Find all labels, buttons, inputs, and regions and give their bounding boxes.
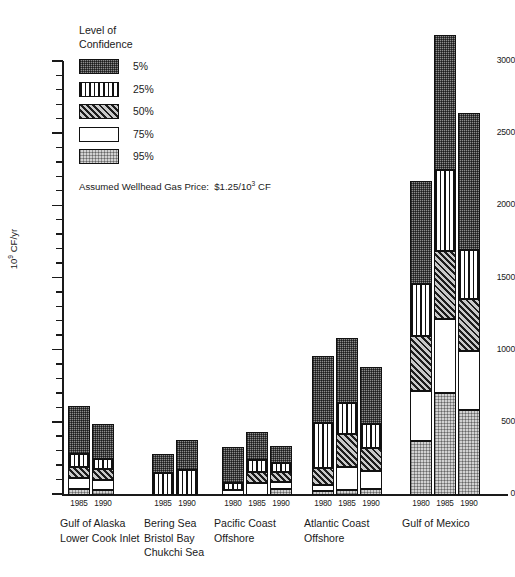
bar-segment (92, 424, 114, 459)
bar-segment (222, 447, 244, 483)
x-year-label: 1990 (354, 499, 388, 508)
bar-segment (410, 391, 432, 441)
bar-segment (246, 472, 268, 483)
bar-segment (92, 469, 114, 480)
bar-segment (152, 473, 174, 495)
x-year-label: 1990 (86, 499, 120, 508)
plot-area (62, 61, 508, 495)
bar-segment (434, 319, 456, 393)
bar-segment (312, 468, 334, 485)
bar-segment (270, 446, 292, 463)
x-year-label: 1990 (452, 499, 486, 508)
x-category-label: Bering SeaBristol BayChukchi Sea (144, 516, 204, 560)
bar-segment (336, 467, 358, 490)
bar-segment (360, 367, 382, 423)
bar-segment (312, 356, 334, 422)
bar-segment (410, 336, 432, 392)
bar-segment (458, 351, 480, 410)
legend-title: Level ofConfidence (79, 24, 154, 51)
bar-segment (92, 490, 114, 495)
bar-segment (176, 470, 198, 495)
bar-segment (68, 454, 90, 467)
bar-segment (246, 483, 268, 495)
bar-segment (458, 113, 480, 250)
bar-segment (68, 478, 90, 489)
bar-segment (270, 472, 292, 482)
bar-segment (270, 463, 292, 472)
bar-segment (434, 251, 456, 319)
x-year-label: 1990 (264, 499, 298, 508)
bar-segment (312, 485, 334, 491)
bar-segment (336, 434, 358, 467)
bar-segment (360, 489, 382, 495)
bar-segment (222, 490, 244, 495)
bar-segment (410, 181, 432, 284)
bar-segment (336, 403, 358, 434)
bar-segment (222, 483, 244, 489)
gas-supply-stacked-bar-chart: 050010001500200025003000 109 CF/yr Level… (0, 0, 515, 577)
bar-segment (152, 454, 174, 473)
bar-segment (434, 35, 456, 170)
bar-segment (312, 423, 334, 468)
bar-segment (458, 410, 480, 495)
bar-segment (434, 170, 456, 252)
bar-segment (92, 480, 114, 490)
bar-segment (270, 489, 292, 495)
bar-segment (68, 406, 90, 454)
bar-segment (434, 393, 456, 495)
bar-segment (246, 432, 268, 459)
bar-segment (68, 467, 90, 479)
x-category-label: Atlantic CoastOffshore (304, 516, 369, 545)
x-category-label: Gulf of AlaskaLower Cook Inlet (60, 516, 140, 545)
bar-segment (360, 471, 382, 489)
bar-segment (336, 338, 358, 403)
bar-segment (360, 448, 382, 471)
bar-segment (270, 482, 292, 488)
bar-segment (458, 299, 480, 350)
bar-segment (246, 460, 268, 472)
bar-segment (410, 441, 432, 495)
bar-segment (92, 459, 114, 469)
bar-segment (360, 424, 382, 449)
x-category-label: Gulf of Mexico (402, 516, 470, 531)
bar-segment (176, 440, 198, 470)
bar-segment (458, 250, 480, 300)
bar-segment (410, 284, 432, 335)
bar-segment (312, 491, 334, 495)
y-axis-title: 109 CF/yr (7, 210, 19, 288)
bar-segment (336, 490, 358, 495)
x-category-label: Pacific CoastOffshore (214, 516, 276, 545)
x-year-label: 1990 (170, 499, 204, 508)
bar-segment (68, 489, 90, 495)
